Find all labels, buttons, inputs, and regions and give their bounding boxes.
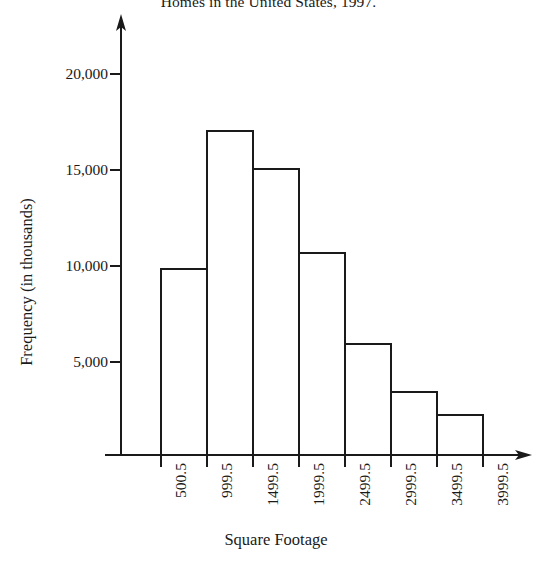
- x-tick-label-3999.5: 3999.5: [494, 463, 512, 549]
- y-axis-title: Frequency (in thousands): [17, 132, 37, 432]
- histogram-figure: Homes in the United States, 1997.: [0, 0, 537, 562]
- x-axis-title: Square Footage: [96, 530, 456, 550]
- x-tick-label-group: 500.5 999.5 1499.5 1999.5 2499.5 2999.5 …: [0, 0, 537, 562]
